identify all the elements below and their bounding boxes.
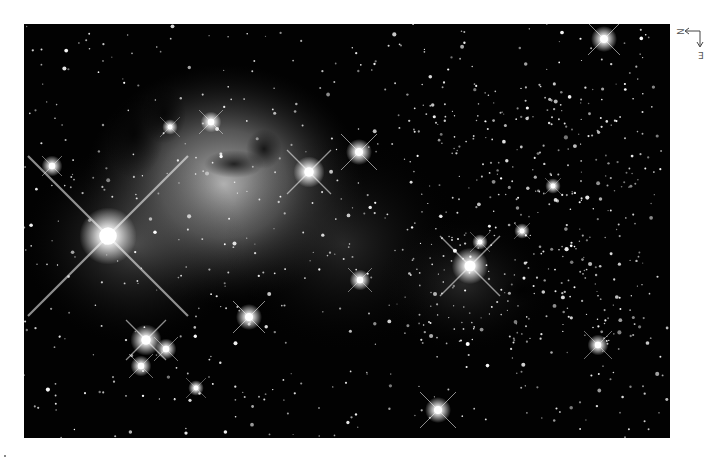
bright-star — [233, 301, 265, 333]
bright-star — [470, 232, 490, 252]
bright-star — [42, 156, 63, 177]
astronomical-photo — [24, 24, 670, 438]
bright-star — [420, 392, 456, 428]
bright-star — [348, 268, 372, 292]
bright-star — [514, 223, 530, 239]
corner-mark — [4, 455, 6, 457]
cone-dark-nebula — [502, 276, 542, 304]
bright-star — [584, 331, 612, 359]
bright-star — [154, 337, 178, 361]
bright-star — [160, 117, 180, 137]
bright-star — [287, 150, 331, 194]
north-label: N — [675, 28, 684, 35]
star-field — [24, 24, 670, 438]
bright-star — [129, 354, 153, 378]
east-label: E — [698, 50, 704, 59]
bright-star — [341, 134, 377, 170]
bright-star — [545, 178, 561, 194]
bright-star — [199, 110, 223, 134]
orientation-compass: N E — [676, 22, 716, 62]
bright-star — [588, 24, 620, 55]
bright-star — [186, 378, 206, 398]
